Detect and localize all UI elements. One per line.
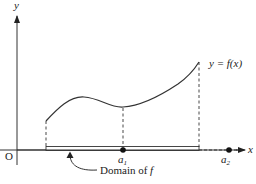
domain-diagram: y x O y = f(x) a1 a2 Domain of f xyxy=(0,0,256,184)
point-a1 xyxy=(120,147,126,153)
point-a2 xyxy=(226,147,232,153)
a2-label: a2 xyxy=(221,153,231,167)
function-curve xyxy=(46,62,199,121)
x-axis-label: x xyxy=(247,143,253,155)
origin-label: O xyxy=(5,150,13,162)
domain-pointer-arrow xyxy=(67,152,98,171)
y-axis-label: y xyxy=(13,0,19,11)
domain-label: Domain of f xyxy=(100,164,155,176)
dashed-guides xyxy=(46,62,199,150)
curve-label: y = f(x) xyxy=(208,57,242,70)
